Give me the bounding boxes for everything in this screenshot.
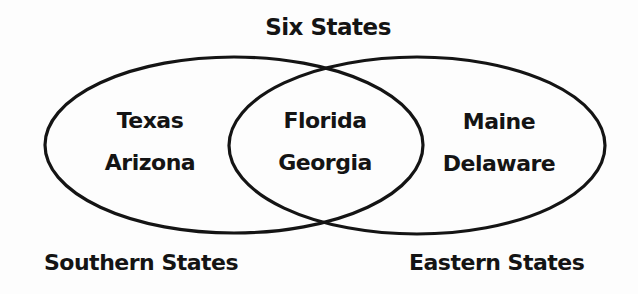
region-item: Maine	[429, 111, 569, 153]
diagram-title: Six States	[0, 16, 638, 39]
region-item: Delaware	[429, 153, 569, 195]
region-item: Texas	[80, 110, 220, 152]
eastern-states-label: Eastern States	[409, 252, 584, 274]
region-item: Arizona	[80, 152, 220, 194]
region-item: Georgia	[255, 152, 395, 194]
southern-only-region: Texas Arizona	[80, 110, 220, 194]
venn-diagram: Six States Texas Arizona Florida Georgia…	[0, 0, 638, 294]
eastern-only-region: Maine Delaware	[429, 111, 569, 195]
region-item: Florida	[255, 110, 395, 152]
intersection-region: Florida Georgia	[255, 110, 395, 194]
southern-states-label: Southern States	[44, 252, 238, 274]
